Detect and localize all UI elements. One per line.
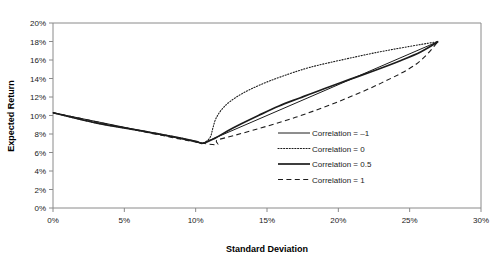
efficient-frontier-chart: 0%2%4%6%8%10%12%14%16%18%20% 0%5%10%15%2… (0, 0, 501, 263)
y-tick-label: 16% (30, 56, 46, 65)
chart-container: 0%2%4%6%8%10%12%14%16%18%20% 0%5%10%15%2… (0, 0, 501, 263)
y-axis-title: Expected Return (6, 80, 16, 152)
x-axis-title: Standard Deviation (226, 244, 308, 254)
x-tick-label: 5% (119, 216, 131, 225)
x-tick-label: 15% (259, 216, 275, 225)
y-tick-label: 10% (30, 112, 46, 121)
x-tick-label: 20% (330, 216, 346, 225)
x-tick-label: 0% (47, 216, 59, 225)
x-tick-label: 25% (402, 216, 418, 225)
x-tick-label: 30% (473, 216, 489, 225)
y-tick-label: 18% (30, 38, 46, 47)
x-tick-label: 10% (188, 216, 204, 225)
legend-label-0: Correlation = –1 (312, 129, 370, 138)
y-tick-label: 2% (34, 186, 46, 195)
legend-label-1: Correlation = 0 (312, 145, 365, 154)
y-tick-label: 8% (34, 130, 46, 139)
chart-background (0, 0, 501, 263)
legend-label-3: Correlation = 1 (312, 176, 365, 185)
y-tick-label: 20% (30, 19, 46, 28)
y-tick-label: 14% (30, 75, 46, 84)
y-tick-label: 12% (30, 93, 46, 102)
y-tick-label: 4% (34, 167, 46, 176)
y-tick-label: 0% (34, 204, 46, 213)
y-tick-label: 6% (34, 149, 46, 158)
legend-label-2: Correlation = 0.5 (312, 160, 372, 169)
